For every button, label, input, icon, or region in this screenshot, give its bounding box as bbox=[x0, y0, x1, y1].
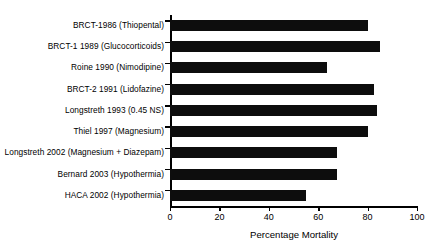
x-axis-tick bbox=[219, 206, 220, 211]
x-axis-tick-label: 60 bbox=[298, 212, 338, 223]
y-axis-tick bbox=[165, 63, 170, 64]
bar bbox=[170, 147, 337, 158]
y-axis-tick bbox=[165, 42, 170, 43]
bar-row bbox=[170, 57, 417, 78]
y-axis-tick bbox=[165, 190, 170, 191]
bar-row bbox=[170, 142, 417, 163]
bar bbox=[170, 190, 306, 201]
bar bbox=[170, 41, 380, 52]
y-axis-tick bbox=[165, 105, 170, 106]
category-label: BRCT-1 1989 (Glucocorticoids) bbox=[0, 41, 164, 51]
category-label: Bernard 2003 (Hypothermia) bbox=[0, 169, 164, 179]
bar bbox=[170, 84, 374, 95]
x-axis-title: Percentage Mortality bbox=[170, 229, 418, 241]
plot-area bbox=[170, 15, 417, 206]
bar bbox=[170, 62, 327, 73]
x-axis-tick-label: 40 bbox=[249, 212, 289, 223]
category-label: Roine 1990 (Nimodipine) bbox=[0, 62, 164, 72]
x-axis-tick bbox=[368, 206, 369, 211]
category-axis-labels: BRCT-1986 (Thiopental)BRCT-1 1989 (Gluco… bbox=[0, 15, 164, 206]
x-axis-tick-label: 0 bbox=[150, 212, 190, 223]
bar-row bbox=[170, 185, 417, 206]
x-axis-tick-label: 100 bbox=[397, 212, 437, 223]
bar-row bbox=[170, 36, 417, 57]
x-axis-tick-label: 80 bbox=[348, 212, 388, 223]
category-label: Longstreth 2002 (Magnesium + Diazepam) bbox=[0, 147, 164, 157]
category-label: Longstreth 1993 (0.45 NS) bbox=[0, 105, 164, 115]
bar bbox=[170, 169, 337, 180]
y-axis-tick bbox=[165, 126, 170, 127]
y-axis-tick bbox=[165, 20, 170, 21]
y-axis-tick bbox=[165, 169, 170, 170]
bar-chart: BRCT-1986 (Thiopental)BRCT-1 1989 (Gluco… bbox=[0, 0, 441, 252]
category-label: HACA 2002 (Hypothermia) bbox=[0, 190, 164, 200]
y-axis-tick bbox=[165, 84, 170, 85]
bar-row bbox=[170, 164, 417, 185]
bar-row bbox=[170, 79, 417, 100]
bar bbox=[170, 20, 368, 31]
y-axis-tick bbox=[165, 148, 170, 149]
bar-row bbox=[170, 15, 417, 36]
x-axis-tick-label: 20 bbox=[199, 212, 239, 223]
bar-row bbox=[170, 100, 417, 121]
x-axis-tick bbox=[269, 206, 270, 211]
bar-row bbox=[170, 121, 417, 142]
category-label: Thiel 1997 (Magnesium) bbox=[0, 126, 164, 136]
bar bbox=[170, 105, 377, 116]
x-axis-tick bbox=[170, 206, 171, 211]
category-label: BRCT-2 1991 (Lidofazine) bbox=[0, 84, 164, 94]
category-label: BRCT-1986 (Thiopental) bbox=[0, 20, 164, 30]
x-axis-tick bbox=[417, 206, 418, 211]
x-axis-line bbox=[170, 206, 418, 208]
bar bbox=[170, 126, 368, 137]
x-axis-tick bbox=[318, 206, 319, 211]
